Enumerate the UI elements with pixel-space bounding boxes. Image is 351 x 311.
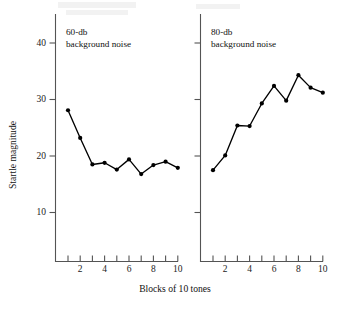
x-tick-label: 2 <box>223 264 228 274</box>
x-tick-label: 8 <box>296 264 301 274</box>
x-axis-title: Blocks of 10 tones <box>139 283 211 294</box>
x-tick-label: 4 <box>102 264 107 274</box>
data-point <box>309 86 313 90</box>
panel-60db: 40 30 20 10 2 4 6 8 <box>37 14 183 274</box>
data-point <box>321 91 325 95</box>
x-tick-labels-left: 2 4 6 8 10 <box>78 264 183 274</box>
data-point <box>211 168 215 172</box>
x-ticks-left <box>68 256 178 262</box>
x-tick-label: 6 <box>272 264 277 274</box>
panel-80db: 2 4 6 8 10 80-db background noise <box>195 14 328 274</box>
series-60db-line <box>68 110 178 174</box>
x-tick-label: 10 <box>318 264 328 274</box>
data-point <box>296 73 300 77</box>
y-tick-label: 40 <box>37 38 47 48</box>
data-point <box>151 163 155 167</box>
y-tick-label: 10 <box>37 207 47 217</box>
x-tick-label: 10 <box>173 264 183 274</box>
scan-artifact <box>58 2 240 15</box>
series-60db <box>66 108 180 176</box>
y-ticks-right <box>195 43 201 213</box>
data-point <box>260 101 264 105</box>
data-point <box>115 167 119 171</box>
data-point <box>223 153 227 157</box>
data-point <box>78 136 82 140</box>
series-60db-markers <box>66 108 180 176</box>
y-axis-title: Startle magnitude <box>7 121 18 189</box>
panel-note-line1: 80-db <box>211 27 233 37</box>
data-point <box>176 166 180 170</box>
data-point <box>66 108 70 112</box>
x-tick-label: 4 <box>247 264 252 274</box>
data-point <box>284 99 288 103</box>
y-tick-label: 20 <box>37 151 47 161</box>
data-point <box>127 157 131 161</box>
panel-60db-annotation: 60-db background noise <box>66 27 131 49</box>
data-point <box>164 160 168 164</box>
panel-note-line2: background noise <box>211 39 276 49</box>
y-ticks-left <box>50 43 56 213</box>
startle-magnitude-chart: 40 30 20 10 2 4 6 8 <box>0 0 351 311</box>
series-80db-markers <box>211 73 325 172</box>
panel-note-line2: background noise <box>66 39 131 49</box>
series-80db <box>211 73 325 172</box>
data-point <box>103 161 107 165</box>
x-tick-label: 8 <box>151 264 156 274</box>
x-tick-label: 6 <box>127 264 132 274</box>
panel-80db-annotation: 80-db background noise <box>211 27 276 49</box>
y-tick-label: 30 <box>37 94 47 104</box>
x-ticks-right <box>213 256 323 262</box>
data-point <box>272 84 276 88</box>
x-tick-labels-right: 2 4 6 8 10 <box>223 264 328 274</box>
series-80db-line <box>213 75 323 170</box>
data-point <box>90 162 94 166</box>
data-point <box>139 172 143 176</box>
panel-note-line1: 60-db <box>66 27 88 37</box>
data-point <box>248 124 252 128</box>
x-tick-label: 2 <box>78 264 83 274</box>
figure-container: 40 30 20 10 2 4 6 8 <box>0 0 351 311</box>
y-tick-labels-left: 40 30 20 10 <box>37 38 47 218</box>
data-point <box>235 123 239 127</box>
